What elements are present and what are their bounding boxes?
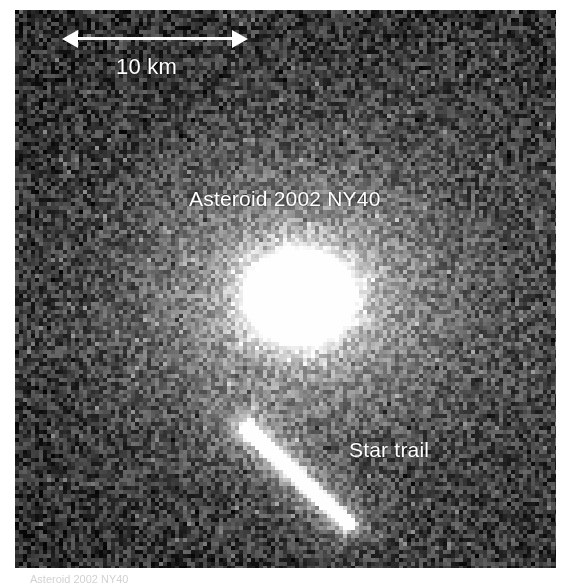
figure-caption: Asteroid 2002 NY40 (30, 573, 450, 585)
ccd-image-plate: 10 km Asteroid 2002 NY40 Star trail (15, 10, 556, 568)
annotation-overlay: 10 km Asteroid 2002 NY40 Star trail (15, 10, 556, 568)
scale-bar-label: 10 km (116, 54, 177, 80)
star-trail-label: Star trail (349, 438, 429, 462)
scale-bar (62, 30, 248, 48)
arrow-right-icon (232, 30, 248, 48)
scale-bar-shaft (76, 37, 234, 40)
asteroid-label: Asteroid 2002 NY40 (189, 187, 381, 211)
figure-container: 10 km Asteroid 2002 NY40 Star trail Aste… (0, 0, 574, 585)
